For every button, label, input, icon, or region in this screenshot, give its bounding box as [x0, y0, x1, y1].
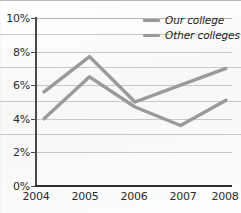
y-tick-label-6: 6% — [0, 79, 30, 92]
y-tick-label-2: 2% — [0, 146, 30, 159]
y-tick-mark-8 — [31, 52, 35, 53]
y-tick-mark-6 — [31, 85, 35, 86]
series-lines — [36, 18, 232, 186]
legend-swatch-our-college — [143, 19, 160, 22]
y-tick-label-10: 10% — [0, 12, 30, 25]
y-tick-mark-0 — [31, 186, 35, 187]
y-axis — [35, 17, 37, 187]
legend-swatch-other-colleges — [143, 34, 160, 37]
y-tick-label-4: 4% — [0, 113, 30, 126]
x-axis — [35, 185, 232, 187]
y-tick-mark-10 — [31, 18, 35, 19]
legend-item-our-college: Our college — [143, 14, 240, 26]
x-tick-label-2007: 2007 — [163, 190, 203, 203]
x-tick-label-2008: 2008 — [205, 190, 241, 203]
gridline-top-border — [0, 0, 241, 1]
plot-area — [36, 18, 232, 186]
chart-legend: Our college Other colleges — [143, 14, 240, 41]
y-tick-mark-4 — [31, 119, 35, 120]
legend-label-our-college: Our college — [165, 14, 224, 26]
x-tick-label-2006: 2006 — [114, 190, 154, 203]
y-tick-mark-2 — [31, 152, 35, 153]
x-tick-label-2004: 2004 — [16, 190, 56, 203]
legend-label-other-colleges: Other colleges — [165, 29, 240, 41]
line-chart: 10% 8% 6% 4% 2% 0% 2004 2005 2006 2007 2… — [0, 0, 241, 213]
x-tick-label-2005: 2005 — [65, 190, 105, 203]
legend-item-other-colleges: Other colleges — [143, 29, 240, 41]
y-tick-label-8: 8% — [0, 46, 30, 59]
